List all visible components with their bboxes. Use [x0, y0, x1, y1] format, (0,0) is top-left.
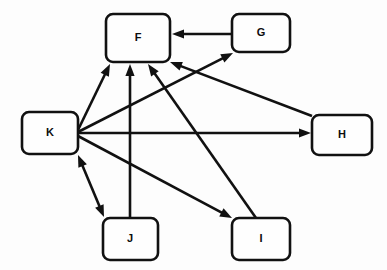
edge-line-i-to-f — [153, 72, 256, 218]
node-box-f — [106, 14, 170, 62]
arrowhead-k-to-i-end — [219, 208, 232, 218]
nodes-layer: FGKHJI — [22, 14, 372, 260]
edge-line-h-to-f — [179, 65, 312, 116]
edge-i-to-f[interactable] — [148, 64, 256, 218]
edge-k-to-j[interactable] — [78, 155, 104, 217]
diagram-canvas-container: FGKHJI — [0, 0, 387, 270]
node-box-g — [232, 14, 290, 52]
node-box-h — [312, 115, 372, 155]
arrowhead-k-to-j-end — [95, 204, 104, 217]
arrowhead-k-to-g-end — [220, 53, 233, 63]
node-h[interactable]: H — [312, 115, 372, 155]
edge-j-to-f[interactable] — [125, 64, 134, 218]
node-box-k — [22, 112, 78, 154]
arrowhead-i-to-f-end — [148, 64, 159, 76]
node-box-i — [232, 218, 290, 260]
edge-h-to-f[interactable] — [170, 62, 312, 116]
arrowhead-j-to-f-end — [125, 64, 134, 76]
edge-g-to-f[interactable] — [172, 29, 232, 38]
edge-k-to-g[interactable] — [78, 53, 233, 132]
arrowhead-k-to-j-start — [78, 155, 87, 168]
node-i[interactable]: I — [232, 218, 290, 260]
node-g[interactable]: G — [232, 14, 290, 52]
arrowhead-k-to-h-end — [299, 128, 311, 137]
arrowhead-g-to-f-end — [172, 29, 184, 38]
node-j[interactable]: J — [103, 218, 158, 260]
edge-line-k-to-i — [78, 136, 224, 214]
arrowhead-h-to-f-end — [170, 62, 183, 71]
edge-line-k-to-j — [82, 164, 101, 208]
node-k[interactable]: K — [22, 112, 78, 154]
node-f[interactable]: F — [106, 14, 170, 62]
arrowhead-k-to-f-end — [101, 64, 110, 77]
node-box-j — [103, 218, 158, 260]
edge-k-to-f[interactable] — [78, 64, 110, 130]
graph-svg-canvas: FGKHJI — [0, 0, 387, 270]
